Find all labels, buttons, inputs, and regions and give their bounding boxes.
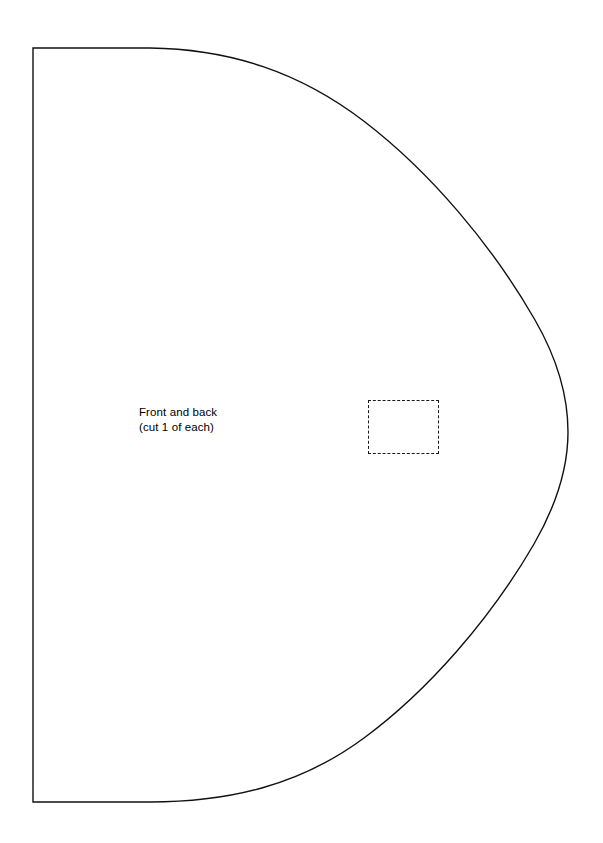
pattern-piece-label-line-2: (cut 1 of each) (139, 420, 217, 435)
dashed-placement-square (368, 400, 439, 454)
pattern-outline-svg (0, 0, 603, 843)
pattern-outline-path (33, 48, 568, 802)
pattern-sheet-page: Front and back (cut 1 of each) (0, 0, 603, 843)
pattern-piece-label-line-1: Front and back (139, 405, 217, 420)
pattern-piece-label: Front and back (cut 1 of each) (139, 405, 217, 435)
